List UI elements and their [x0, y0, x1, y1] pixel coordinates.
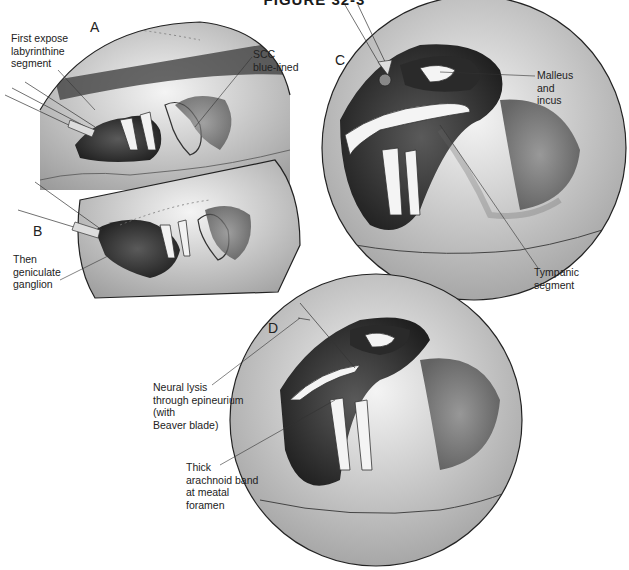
panel-letter-c: C [335, 52, 345, 68]
label-scc-blue-lined: SCC blue-lined [253, 48, 299, 73]
label-labyrinthine-segment: First expose labyrinthine segment [11, 32, 68, 70]
label-geniculate-ganglion: Then geniculate ganglion [13, 253, 61, 291]
label-malleus-incus: Malleus and incus [537, 69, 573, 107]
panel-letter-b: B [33, 223, 42, 239]
panel-letter-a: A [90, 19, 99, 35]
panel-letter-d: D [268, 320, 278, 336]
panel-d-drawing [230, 274, 530, 566]
label-tympanic-segment: Tympanic segment [534, 266, 579, 291]
label-neural-lysis: Neural lysis through epineurium (with Be… [153, 381, 243, 431]
label-arachnoid-band: Thick arachnoid band at meatal foramen [186, 461, 258, 511]
